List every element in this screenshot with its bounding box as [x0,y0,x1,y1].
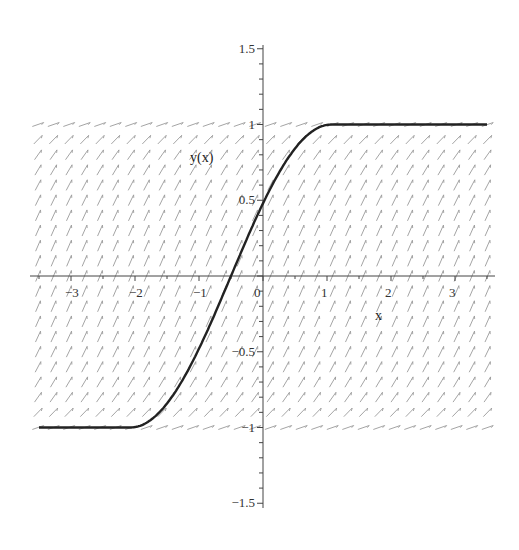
field-arrow [221,180,227,191]
field-arrow [470,286,475,297]
field-arrow [112,377,118,387]
field-arrow [237,210,242,221]
field-arrow [66,195,71,206]
field-arrow [423,225,428,236]
field-arrow [144,301,149,312]
field-arrow [485,210,490,221]
field-arrow [408,225,413,236]
field-arrow [222,240,227,251]
field-arrow [299,180,305,191]
field-arrow [159,331,164,342]
field-arrow [345,180,351,191]
field-arrow [187,426,198,430]
field-arrow [113,195,118,206]
field-arrow [81,150,88,160]
field-arrow [66,210,71,221]
field-arrow [483,408,491,417]
field-arrow [360,392,367,402]
field-arrow [314,210,319,221]
field-arrow [97,346,102,357]
field-arrow [63,123,74,127]
field-arrow [206,346,211,357]
field-arrow [113,286,118,297]
field-arrow [206,240,211,251]
field-arrow [237,331,242,342]
x-tick-label: 1 [321,285,328,300]
field-arrow [345,210,350,221]
field-arrow [34,135,42,144]
field-arrow [314,180,320,191]
field-arrow [408,316,413,327]
field-arrow [452,135,460,144]
field-arrow [361,346,366,357]
field-arrow [144,362,150,373]
field-arrow [51,286,56,297]
field-arrow [453,165,459,175]
field-arrow [51,195,56,206]
field-arrow [98,286,103,297]
field-arrow [159,165,165,175]
field-arrow [392,240,397,251]
field-arrow [422,165,428,175]
field-arrow [423,316,428,327]
field-arrow [438,195,443,206]
field-arrow [314,392,321,402]
field-arrow [189,408,197,417]
field-arrow [453,377,459,387]
field-arrow [438,377,444,387]
field-arrow [359,135,367,144]
field-arrow [221,165,227,175]
field-arrow [284,255,289,266]
field-arrow [299,210,304,221]
field-arrow [66,150,73,160]
field-arrow [98,301,103,312]
field-arrow [267,165,273,175]
field-arrow [206,225,211,236]
field-arrow [113,362,119,373]
field-arrow [376,377,382,387]
field-arrow [221,210,226,221]
field-arrow [266,135,274,144]
field-arrow [267,150,274,160]
field-arrow [299,362,305,373]
field-arrow [407,362,413,373]
field-arrow [48,123,59,127]
field-arrow [392,346,397,357]
field-arrow [454,331,459,342]
field-arrow [408,286,413,297]
field-arrow [82,346,87,357]
field-arrow [237,180,243,191]
field-arrow [35,331,40,342]
field-arrow [438,180,444,191]
field-arrow [159,195,164,206]
field-arrow [361,240,366,251]
field-arrow [438,165,444,175]
field-arrow [190,377,196,387]
field-arrow [125,123,136,127]
field-arrow [144,316,149,327]
field-arrow [408,301,413,312]
field-arrow [345,362,351,373]
field-arrow [453,392,460,402]
field-arrow [252,377,258,387]
field-arrow [268,301,273,312]
field-arrow [361,195,366,206]
field-arrow [98,225,103,236]
field-arrow [298,165,304,175]
field-arrow [327,426,338,430]
field-arrow [160,286,165,297]
field-arrow [314,150,321,160]
field-arrow [128,150,135,160]
field-arrow [392,195,397,206]
field-arrow [435,426,446,430]
field-arrow [98,240,103,251]
field-arrow [205,377,211,387]
field-arrow [128,392,135,402]
field-arrow [377,240,382,251]
field-arrow [67,225,72,236]
field-arrow [330,316,335,327]
field-arrow [330,286,335,297]
field-arrow [268,362,274,373]
field-arrow [128,180,134,191]
field-arrow [236,165,242,175]
